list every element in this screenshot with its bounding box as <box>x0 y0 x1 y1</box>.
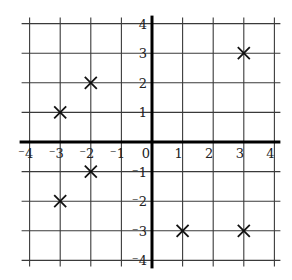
x-tick-label: 1 <box>174 146 182 161</box>
coordinate-grid: ⁻4⁻3⁻2⁻101234 ⁻4⁻3⁻2⁻11234 <box>0 0 292 280</box>
y-tick-label: 3 <box>139 46 147 61</box>
x-tick-label: 3 <box>236 146 244 161</box>
y-tick-label: 4 <box>139 17 147 32</box>
x-tick-label: ⁻2 <box>79 146 94 161</box>
y-tick-label: ⁻2 <box>132 194 147 209</box>
y-tick-label: 1 <box>139 105 147 120</box>
x-axis-tick-labels: ⁻4⁻3⁻2⁻101234 <box>18 146 275 161</box>
y-tick-label: 2 <box>139 76 147 91</box>
x-tick-label: 4 <box>266 146 274 161</box>
y-tick-label: ⁻4 <box>132 253 147 268</box>
y-tick-label: ⁻1 <box>132 165 147 180</box>
x-tick-label: ⁻4 <box>18 146 33 161</box>
x-tick-label: ⁻1 <box>110 146 125 161</box>
x-tick-label: 2 <box>205 146 213 161</box>
x-tick-label: 0 <box>142 146 150 161</box>
y-tick-label: ⁻3 <box>132 224 147 239</box>
x-tick-label: ⁻3 <box>49 146 64 161</box>
